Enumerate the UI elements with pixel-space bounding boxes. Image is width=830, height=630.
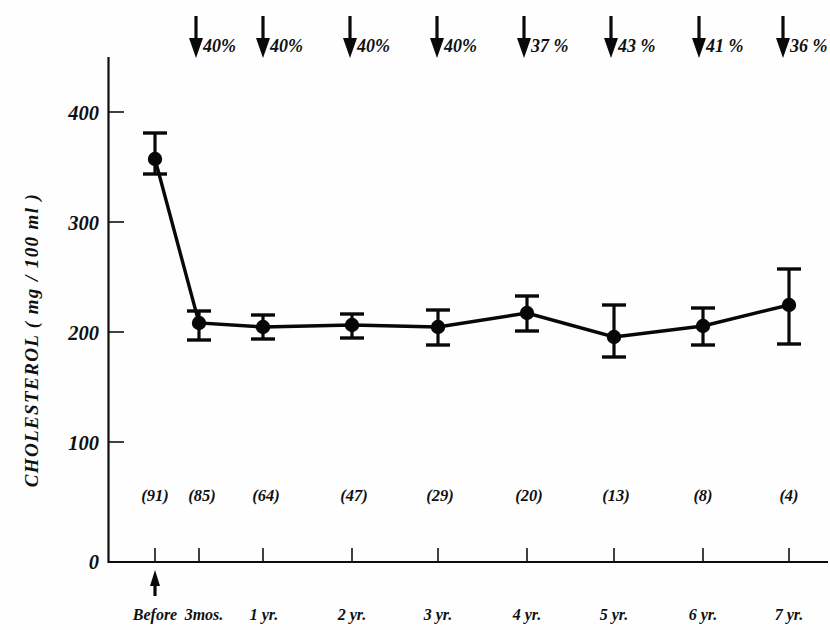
reduction-label-3yr: 40% [443, 36, 477, 56]
reduction-arrow-3mos [189, 16, 203, 58]
sample-size-labels: (91) (85) (64) (47) (29) (20) (13) (8) (… [141, 486, 798, 505]
x-tick-label-2yr: 2 yr. [337, 606, 366, 624]
before-treatment-arrow [150, 570, 160, 596]
y-axis-title-group: CHOLESTEROL ( mg / 100 ml ) [21, 193, 43, 488]
reduction-arrow-1yr [256, 16, 270, 58]
x-tick-label-5yr: 5 yr. [600, 606, 628, 624]
reduction-arrow-4yr [517, 16, 531, 58]
data-point-markers [148, 152, 796, 344]
y-tick-labels: 0 100 200 300 400 [67, 102, 99, 573]
reduction-arrow-6yr [692, 16, 706, 58]
reduction-label-6yr: 41 % [705, 36, 744, 56]
reduction-label-7yr: 36 % [789, 36, 828, 56]
reduction-label-1yr: 40% [269, 36, 303, 56]
reduction-label-5yr: 43 % [617, 36, 656, 56]
data-point-3mos [192, 316, 206, 330]
sample-size-6yr: (8) [693, 486, 712, 505]
sample-size-2yr: (47) [340, 486, 368, 505]
y-tick-label-0: 0 [89, 551, 99, 573]
data-point-1yr [256, 320, 270, 334]
cholesterol-line-chart: CHOLESTEROL ( mg / 100 ml ) 0 100 200 30… [0, 0, 830, 630]
sample-size-3yr: (29) [426, 486, 454, 505]
reduction-annotations: 40% 40% 40% 40% [189, 16, 828, 58]
x-tick-label-6yr: 6 yr. [689, 606, 717, 624]
x-tick-label-1yr: 1 yr. [250, 606, 278, 624]
x-tick-label-3mos: 3mos. [184, 606, 224, 623]
reduction-arrow-5yr [604, 16, 618, 58]
y-axis-title: CHOLESTEROL ( mg / 100 ml ) [21, 193, 43, 488]
data-point-6yr [696, 319, 710, 333]
reduction-label-4yr: 37 % [530, 36, 569, 56]
y-tick-label-300: 300 [67, 212, 99, 234]
x-tick-label-3yr: 3 yr. [423, 606, 452, 624]
data-point-2yr [345, 318, 359, 332]
reduction-arrow-2yr [343, 16, 357, 58]
sample-size-1yr: (64) [252, 486, 280, 505]
reduction-label-3mos: 40% [202, 36, 236, 56]
y-tick-label-100: 100 [68, 432, 99, 454]
x-tick-label-4yr: 4 yr. [512, 606, 541, 624]
x-tick-label-before: Before [132, 606, 177, 624]
chart-canvas: CHOLESTEROL ( mg / 100 ml ) 0 100 200 30… [0, 0, 830, 630]
x-tick-labels: Before 3mos. 1 yr. 2 yr. 3 yr. 4 yr. 5 y… [132, 606, 803, 624]
sample-size-3mos: (85) [188, 486, 216, 505]
axes [108, 57, 828, 563]
series-line-cholesterol [155, 159, 789, 337]
sample-size-before: (91) [141, 486, 169, 505]
reduction-arrow-3yr [430, 16, 444, 58]
sample-size-5yr: (13) [602, 486, 630, 505]
data-point-3yr [431, 320, 445, 334]
data-point-7yr [782, 298, 796, 312]
y-tick-label-200: 200 [67, 322, 99, 344]
data-point-before [148, 152, 162, 166]
y-tick-label-400: 400 [67, 102, 99, 124]
reduction-label-2yr: 40% [356, 36, 390, 56]
sample-size-4yr: (20) [515, 486, 543, 505]
sample-size-7yr: (4) [779, 486, 798, 505]
data-point-4yr [520, 306, 534, 320]
reduction-arrow-7yr [776, 16, 790, 58]
x-tick-label-7yr: 7 yr. [775, 606, 803, 624]
data-point-5yr [607, 330, 621, 344]
